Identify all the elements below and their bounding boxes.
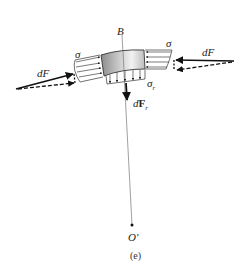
right-dF-solid-arrow xyxy=(176,60,234,61)
label-sigma-left: σ xyxy=(75,49,80,60)
label-dF-left: dF xyxy=(37,68,49,79)
dFr-subscript: r xyxy=(145,104,148,112)
label-O-prime: O' xyxy=(128,232,138,243)
label-sigma-right: σ xyxy=(166,38,171,49)
right-stress-distribution xyxy=(145,50,172,69)
sigma-r-subscript: r xyxy=(152,84,155,92)
left-dF-component xyxy=(74,74,75,83)
dFr-arrow xyxy=(126,83,127,100)
label-B: B xyxy=(117,26,124,37)
center-point xyxy=(131,224,134,227)
label-dF-right: dF xyxy=(202,47,214,58)
belt-element-free-body-diagram: B σ σ σr dF dF dFr O' (e) xyxy=(0,0,236,261)
left-stress-arrows xyxy=(76,57,102,77)
right-dF-dashed-arrow xyxy=(177,62,232,70)
diagram-canvas xyxy=(0,0,236,261)
figure-caption: (e) xyxy=(130,251,141,261)
label-dFr: dFr xyxy=(133,98,148,112)
right-stress-arrows xyxy=(146,52,171,67)
label-sigma-r: σr xyxy=(147,78,155,92)
